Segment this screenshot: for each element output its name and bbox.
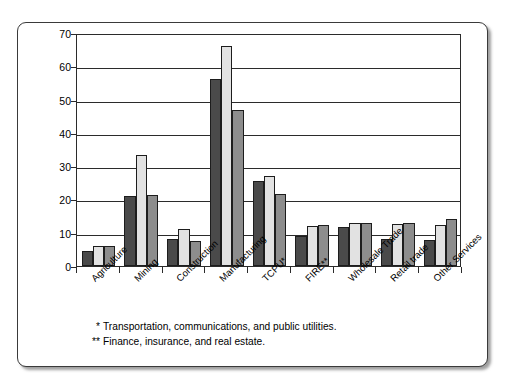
y-tick-mark xyxy=(71,167,76,168)
bar-group xyxy=(253,35,287,266)
x-tick-mark xyxy=(461,267,462,273)
x-tick-mark xyxy=(290,267,291,273)
y-tick-label: 60 xyxy=(31,61,71,73)
bar-group xyxy=(295,35,329,266)
y-tick-mark xyxy=(71,67,76,68)
bar xyxy=(136,155,147,267)
bar-group xyxy=(424,35,458,266)
y-tick-label: 20 xyxy=(31,194,71,206)
bar-group xyxy=(167,35,201,266)
y-tick-label: 10 xyxy=(31,228,71,240)
y-tick-mark xyxy=(71,234,76,235)
bar xyxy=(307,226,318,266)
plot-wrapper: Number of Employees 010203040506070 Agri… xyxy=(76,34,461,267)
y-tick-mark xyxy=(71,200,76,201)
footnote-2-text: Finance, insurance, and real estate. xyxy=(103,336,265,347)
x-tick-mark xyxy=(333,267,334,273)
bar-group xyxy=(338,35,372,266)
x-tick-mark xyxy=(162,267,163,273)
footnote-2-mark: ** xyxy=(86,334,100,349)
y-tick-mark xyxy=(71,134,76,135)
x-tick-mark xyxy=(375,267,376,273)
x-tick-mark xyxy=(204,267,205,273)
bar xyxy=(124,196,135,266)
x-tick-mark xyxy=(76,267,77,273)
y-tick-label: 0 xyxy=(31,261,71,273)
bar xyxy=(349,223,360,266)
bar xyxy=(295,236,306,266)
footnotes: *Transportation, communications, and pub… xyxy=(86,319,336,349)
y-tick-label: 70 xyxy=(31,28,71,40)
bar xyxy=(221,46,232,266)
bar xyxy=(264,176,275,266)
footnote-1-text: Transportation, communications, and publ… xyxy=(103,321,336,332)
x-tick-mark xyxy=(119,267,120,273)
bar xyxy=(232,110,243,266)
bar-group xyxy=(124,35,158,266)
x-tick-mark xyxy=(418,267,419,273)
footnote-1-mark: * xyxy=(86,319,100,334)
bar-group xyxy=(82,35,116,266)
bar-group xyxy=(210,35,244,266)
bar xyxy=(167,239,178,266)
footnote-1: *Transportation, communications, and pub… xyxy=(86,319,336,334)
footnote-2: **Finance, insurance, and real estate. xyxy=(86,334,336,349)
y-tick-mark xyxy=(71,34,76,35)
y-tick-label: 40 xyxy=(31,128,71,140)
y-tick-label: 30 xyxy=(31,161,71,173)
bar xyxy=(435,225,446,266)
bar xyxy=(82,251,93,266)
chart-figure: 1962 1980 1993 Number of Employees 01020… xyxy=(17,22,488,367)
y-tick-label: 50 xyxy=(31,95,71,107)
y-tick-mark xyxy=(71,101,76,102)
bar xyxy=(338,227,349,266)
x-tick-mark xyxy=(247,267,248,273)
